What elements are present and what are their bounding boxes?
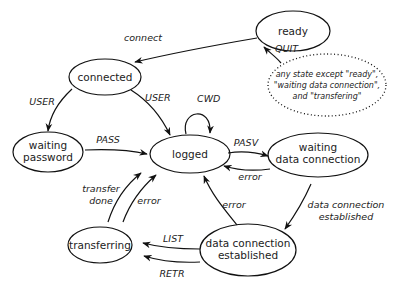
node-waiting-password: waiting password <box>13 132 83 172</box>
node-logged-label: logged <box>172 148 208 160</box>
node-waiting-password-line1: waiting <box>29 139 67 151</box>
node-ready-label: ready <box>278 25 308 37</box>
edge-user-logged: USER <box>131 90 171 135</box>
edge-transfer-done: transfer done <box>82 173 141 222</box>
node-transferring: transferring <box>68 227 132 263</box>
edge-retr: RETR <box>144 256 200 279</box>
note-line2: "waiting data connection", <box>274 81 380 90</box>
note-line3: and "transfering" <box>293 92 362 101</box>
edge-user-logged-label: USER <box>145 92 171 103</box>
edge-pass-label: PASS <box>96 134 119 145</box>
edge-transfer-done-line1: transfer <box>82 183 121 194</box>
edge-connect-label: connect <box>124 32 163 43</box>
edge-dce-label-line1: data connection <box>308 199 385 210</box>
edge-error-dce-label: error <box>222 199 246 210</box>
note-any-state: any state except "ready", "waiting data … <box>268 54 386 116</box>
edge-pasv: PASV <box>228 137 268 156</box>
node-dce-line2: established <box>218 249 278 261</box>
edge-error-transfer-label: error <box>137 195 161 206</box>
edge-error-transfer: error <box>123 175 162 222</box>
edge-transfer-done-line2: done <box>89 195 113 206</box>
node-transferring-label: transferring <box>69 239 131 251</box>
edge-cwd-label: CWD <box>197 93 220 104</box>
node-waiting-password-line2: password <box>23 151 73 163</box>
edge-cwd: CWD <box>185 93 220 134</box>
node-dce-line1: data connection <box>206 237 291 249</box>
ftp-state-diagram: ready connected waiting password logged … <box>0 0 397 291</box>
edge-data-conn-established: data connection established <box>285 184 384 229</box>
edge-retr-label: RETR <box>159 268 184 279</box>
edge-user-waiting: USER <box>29 89 72 131</box>
edge-connect: connect <box>124 32 257 62</box>
edge-list: LIST <box>143 233 200 249</box>
edge-error-wdc-label: error <box>238 171 262 182</box>
node-connected-label: connected <box>78 71 133 83</box>
edge-dce-label-line2: established <box>319 211 374 222</box>
edge-pass: PASS <box>85 134 147 154</box>
node-waiting-data-connection-line1: waiting <box>299 141 337 153</box>
edge-error-dce: error <box>204 176 247 225</box>
edge-quit-label: QUIT <box>275 43 299 54</box>
edge-error-wdc: error <box>224 166 270 182</box>
node-logged: logged <box>150 135 230 173</box>
node-connected: connected <box>69 59 141 95</box>
node-waiting-data-connection-line2: data connection <box>276 153 361 165</box>
edge-user-waiting-label: USER <box>29 96 55 107</box>
note-line1: any state except "ready", <box>276 70 379 79</box>
node-data-connection-established: data connection established <box>200 224 296 276</box>
edge-pasv-label: PASV <box>234 137 260 148</box>
node-waiting-data-connection: waiting data connection <box>268 133 368 177</box>
edge-list-label: LIST <box>163 233 184 244</box>
